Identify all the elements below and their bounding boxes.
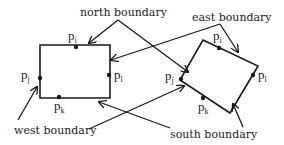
east-boundary-label: east boundary	[192, 11, 272, 24]
west-arrow-right	[89, 86, 184, 129]
south-boundary-label: south boundary	[170, 128, 258, 141]
right-point-i-label: pi	[213, 28, 223, 45]
right-point-k-label: pk	[198, 99, 209, 116]
north-arrow-left	[89, 20, 118, 43]
left-point-j-dot	[38, 76, 42, 80]
right-rectangle-outline	[180, 40, 258, 113]
north-boundary-label: north boundary	[80, 6, 168, 19]
south-arrow-right	[233, 104, 243, 127]
boundary-diagram: pi pl pj pk pi pl pj pk north boundary e…	[0, 0, 284, 145]
left-rectangle-outline	[40, 45, 110, 98]
south-boundary-callout: south boundary	[99, 102, 258, 141]
east-arrow-right	[220, 24, 238, 52]
right-point-l-dot	[251, 73, 255, 77]
north-boundary-callout: north boundary	[80, 6, 188, 72]
right-point-l-label: pl	[258, 67, 268, 84]
left-point-l-label: pl	[114, 67, 124, 84]
left-point-l-dot	[107, 73, 111, 77]
left-point-i-label: pi	[68, 28, 78, 45]
west-arrow-left	[18, 87, 37, 120]
west-boundary-label: west boundary	[14, 124, 97, 137]
left-rectangle: pi pl pj pk	[21, 28, 124, 115]
left-point-k-label: pk	[54, 98, 65, 115]
right-point-j-label: pj	[165, 68, 174, 85]
right-rectangle: pi pl pj pk	[165, 28, 268, 116]
right-point-i-dot	[217, 46, 221, 50]
left-point-i-dot	[74, 45, 78, 49]
left-point-j-label: pj	[21, 67, 30, 84]
right-point-j-dot	[179, 77, 183, 81]
south-arrow-left	[99, 102, 170, 128]
